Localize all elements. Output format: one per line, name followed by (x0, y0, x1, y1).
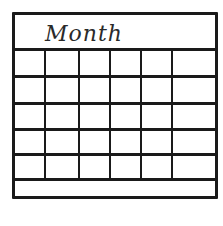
calendar-cell (15, 105, 46, 131)
calendar-cell (142, 51, 173, 78)
calendar-cell (80, 51, 111, 78)
calendar-cell (15, 156, 46, 181)
calendar-cell (142, 156, 173, 181)
calendar-cell (46, 131, 80, 156)
calendar-cell (46, 156, 80, 181)
calendar-cell (173, 105, 215, 131)
calendar-cell (173, 156, 215, 181)
calendar-cell (80, 105, 111, 131)
calendar-cell (46, 105, 80, 131)
calendar-cell (173, 51, 215, 78)
calendar-grid (15, 51, 215, 193)
calendar-cell (111, 156, 142, 181)
month-title: Month (45, 21, 123, 46)
calendar-cell (111, 105, 142, 131)
calendar-cell (142, 131, 173, 156)
calendar-cell (80, 156, 111, 181)
calendar-cell (46, 51, 80, 78)
calendar-cell (15, 131, 46, 156)
calendar-cell (80, 78, 111, 105)
calendar-cell (111, 78, 142, 105)
calendar-cell (142, 105, 173, 131)
calendar-cell (46, 78, 80, 105)
calendar-cell (173, 131, 215, 156)
calendar-cell (111, 131, 142, 156)
calendar-cell (15, 78, 46, 105)
calendar-frame: Month (12, 12, 218, 199)
calendar-header: Month (15, 15, 215, 51)
calendar-cell (15, 51, 46, 78)
calendar-cell (142, 78, 173, 105)
calendar-cell (173, 78, 215, 105)
calendar-cell (80, 131, 111, 156)
calendar-cell (111, 51, 142, 78)
calendar-footer-strip (15, 192, 215, 196)
